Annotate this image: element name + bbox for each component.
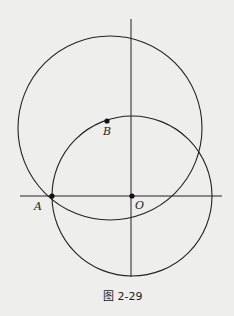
- point-A-dot: [49, 193, 54, 198]
- point-O-dot: [129, 193, 134, 198]
- geometry-figure: A B O 图 2-29: [0, 0, 234, 316]
- point-O-label: O: [135, 199, 144, 212]
- point-B-dot: [104, 118, 109, 123]
- figure-caption: 图 2-29: [103, 290, 142, 303]
- point-B-label: B: [102, 125, 111, 138]
- point-A-label: A: [33, 200, 42, 213]
